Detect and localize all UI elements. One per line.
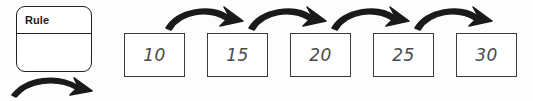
sequence-box[interactable]: 10 — [124, 33, 185, 77]
curved-arrow-right-icon — [6, 64, 102, 101]
rule-card[interactable]: Rule — [16, 6, 92, 72]
curved-arrow-right-icon — [163, 3, 249, 33]
sequence-box-value: 20 — [291, 34, 350, 76]
sequence-box[interactable]: 30 — [456, 33, 517, 77]
sequence-box-value: 15 — [208, 34, 267, 76]
curved-arrow-right-icon — [246, 3, 332, 33]
worksheet-canvas: Rule 10 15 20 25 30 — [0, 0, 533, 101]
sequence-box-value: 30 — [457, 34, 516, 76]
curved-arrow-right-icon — [412, 3, 498, 33]
sequence-box[interactable]: 25 — [373, 33, 434, 77]
sequence-box[interactable]: 15 — [207, 33, 268, 77]
sequence-box-value: 25 — [374, 34, 433, 76]
curved-arrow-right-icon — [329, 3, 415, 33]
rule-card-label: Rule — [25, 10, 49, 30]
sequence-box[interactable]: 20 — [290, 33, 351, 77]
sequence-box-value: 10 — [125, 34, 184, 76]
